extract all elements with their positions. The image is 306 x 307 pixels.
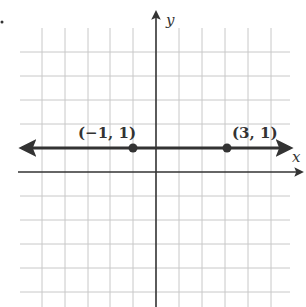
point-3-1-label: (3, 1): [232, 124, 278, 142]
y-axis-label: y: [165, 11, 175, 29]
point-neg1-1-label: (−1, 1): [78, 124, 136, 142]
coordinate-plane: y x (−1, 1) (3, 1): [0, 0, 306, 307]
point-neg1-1: [129, 144, 138, 153]
corner-mark: [1, 21, 4, 24]
grid: [20, 28, 290, 307]
point-3-1: [223, 144, 232, 153]
x-axis-label: x: [292, 148, 301, 166]
